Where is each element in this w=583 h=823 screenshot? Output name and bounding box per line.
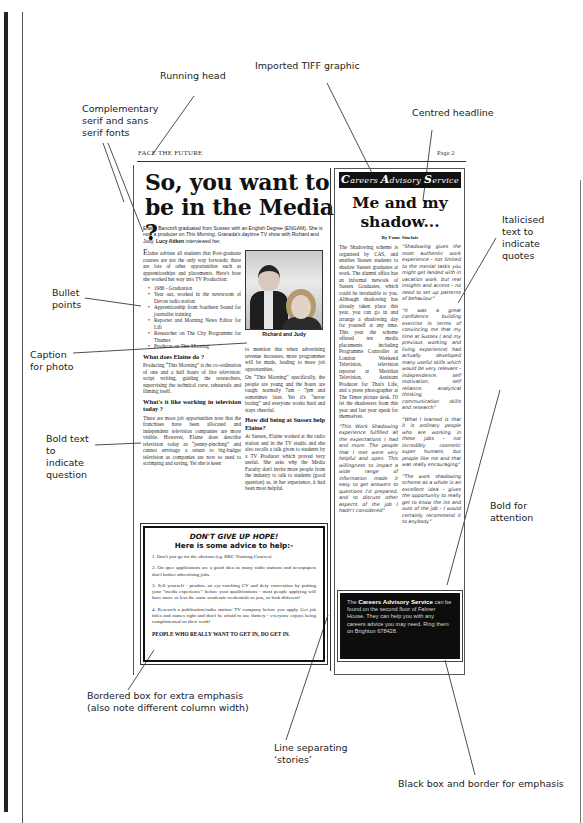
quote: “Shadowing gives the most authentic work… <box>402 244 461 303</box>
annotation-complementary-fonts: Complementary serif and sans serif fonts <box>82 103 158 139</box>
advice-title: DON'T GIVE UP HOPE! <box>152 532 316 541</box>
quote: “It was a great confidence building exer… <box>402 308 461 412</box>
article-column-1: Elaine advises all students that Post-gr… <box>143 250 241 469</box>
photo-caption: Richard and Judy <box>245 331 323 337</box>
header-rule <box>137 161 466 162</box>
intro-paragraph: Elaine advises all students that Post-gr… <box>143 250 241 283</box>
quote: “What I learned is that it is ordinary p… <box>402 417 461 469</box>
annotation-bullet-points: Bullet points <box>52 287 81 311</box>
list-item: Apprenticeship from Southern Sound for j… <box>148 304 241 317</box>
list-item: Producer on This Morning <box>148 343 241 350</box>
article-column-2: to mention that when advertising revenue… <box>245 346 325 494</box>
advice-subtitle: Here is some advice to help:- <box>152 541 316 550</box>
list-item: Year out, worked in the newsroom of Devo… <box>148 291 241 304</box>
annotation-bold-question: Bold text to indicate question <box>46 433 89 481</box>
quote: “This Work Shadowing experience fulfille… <box>339 424 398 515</box>
annotation-bold-attention: Bold for attention <box>490 500 533 524</box>
question-heading: What's it like working in television tod… <box>143 398 241 413</box>
story-divider-line <box>330 168 331 671</box>
advice-item: 2. On spec applications are a good idea … <box>152 565 316 578</box>
careers-body-column: The Shadowing scheme is organised by CAS… <box>339 244 398 515</box>
advice-bordered-box: DON'T GIVE UP HOPE! Here is some advice … <box>140 523 328 665</box>
running-head: FACE THE FUTURE <box>138 149 203 157</box>
question-heading: How did being at Sussex help Elaine? <box>245 416 325 431</box>
page-number: Page 2 <box>437 149 455 156</box>
annotation-line-separating: Line separating ‘stories’ <box>274 742 348 766</box>
contact-black-box: The Careers Advisory Service can be foun… <box>337 590 463 662</box>
advice-item: 3. Sell yourself - produce an eye-catchi… <box>152 583 316 602</box>
binding-edge-bar <box>4 12 8 812</box>
shadow-headline: Me and my shadow... <box>339 193 461 231</box>
advice-item: 1. Don't just go for the obvious (eg. BB… <box>152 554 316 560</box>
annotation-bordered-box: Bordered box for extra emphasis (also no… <box>87 690 249 714</box>
annotation-centred-headline: Centred headline <box>412 107 494 119</box>
advice-item: 4. Research a publication/radio station/… <box>152 607 316 626</box>
annotation-imported-tiff: Imported TIFF graphic <box>255 60 360 72</box>
advice-footer: PEOPLE WHO REALLY WANT TO GET IN, DO GET… <box>152 631 316 637</box>
question-heading: What does Elaine do ? <box>143 353 241 361</box>
page-left-edge <box>22 12 23 823</box>
quote: “The work shadowing scheme as a whole is… <box>402 474 461 526</box>
list-item: Researcher on The City Programme for Tha… <box>148 330 241 343</box>
standfirst: Elaine Bancroft graduated from Sussex wi… <box>143 225 328 244</box>
list-item: Reporter and Morning News Editor for Lif… <box>148 317 241 330</box>
photo-richard-and-judy <box>245 250 323 330</box>
annotation-running-head: Running head <box>160 70 226 82</box>
careers-advisory-service-logo: Careers Advisory Service <box>339 172 461 188</box>
career-bullet-list: 1986 - Graduation Year out, worked in th… <box>148 285 241 350</box>
byline: By Fame Sinclair <box>339 235 461 240</box>
annotation-italicised-quotes: Italicised text to indicate quotes <box>502 214 544 262</box>
annotation-black-box: Black box and border for emphasis <box>398 778 564 790</box>
annotation-caption-photo: Caption for photo <box>30 349 73 373</box>
page-right-edge <box>580 180 581 823</box>
careers-quotes-column: “Shadowing gives the most authentic work… <box>402 244 461 531</box>
